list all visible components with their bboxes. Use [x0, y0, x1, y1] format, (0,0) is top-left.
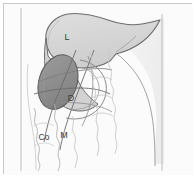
label-mesentery: M [60, 130, 68, 140]
figure-frame: Abdominal anatomy sketch Grayscale line … [3, 3, 192, 174]
label-colon: Co [39, 132, 50, 142]
label-liver: L [64, 32, 69, 42]
label-duodenum: D [68, 93, 75, 103]
figure-root: Abdominal anatomy sketch Grayscale line … [0, 0, 195, 177]
anatomy-illustration: Abdominal anatomy sketch Grayscale line … [4, 4, 193, 175]
